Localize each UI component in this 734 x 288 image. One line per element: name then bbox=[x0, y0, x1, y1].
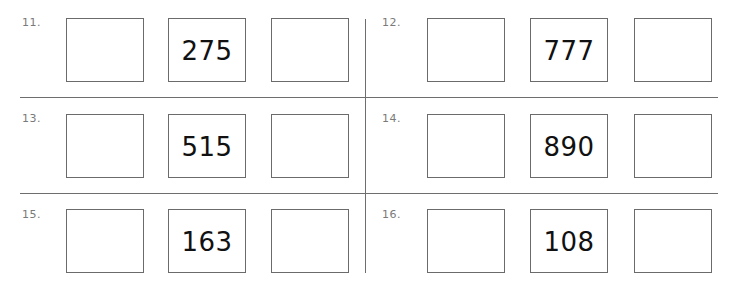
given-number-box: 275 bbox=[168, 18, 246, 82]
answer-box-left[interactable] bbox=[427, 209, 505, 273]
column-divider bbox=[365, 19, 366, 273]
answer-box-left[interactable] bbox=[427, 18, 505, 82]
given-number-box: 890 bbox=[530, 114, 608, 178]
answer-box-left[interactable] bbox=[66, 114, 144, 178]
row-divider-1 bbox=[20, 97, 718, 98]
given-number-box: 777 bbox=[530, 18, 608, 82]
answer-box-right[interactable] bbox=[271, 114, 349, 178]
worksheet: 11. 275 12. 777 13. 515 14. 890 15. 163 … bbox=[0, 0, 734, 288]
answer-box-left[interactable] bbox=[66, 209, 144, 273]
answer-box-right[interactable] bbox=[271, 18, 349, 82]
given-number: 163 bbox=[181, 227, 232, 257]
answer-box-left[interactable] bbox=[427, 114, 505, 178]
problem-number: 16. bbox=[382, 208, 401, 221]
answer-box-right[interactable] bbox=[634, 209, 712, 273]
answer-box-right[interactable] bbox=[634, 114, 712, 178]
problem-number: 12. bbox=[382, 16, 401, 29]
given-number: 777 bbox=[543, 36, 594, 66]
given-number-box: 515 bbox=[168, 114, 246, 178]
given-number: 108 bbox=[543, 227, 594, 257]
given-number-box: 163 bbox=[168, 209, 246, 273]
row-divider-2 bbox=[20, 193, 718, 194]
given-number-box: 108 bbox=[530, 209, 608, 273]
problem-number: 14. bbox=[382, 112, 401, 125]
problem-number: 11. bbox=[22, 16, 41, 29]
answer-box-right[interactable] bbox=[634, 18, 712, 82]
given-number: 515 bbox=[181, 132, 232, 162]
answer-box-right[interactable] bbox=[271, 209, 349, 273]
given-number: 275 bbox=[181, 36, 232, 66]
problem-number: 13. bbox=[22, 112, 41, 125]
answer-box-left[interactable] bbox=[66, 18, 144, 82]
problem-number: 15. bbox=[22, 208, 41, 221]
given-number: 890 bbox=[543, 132, 594, 162]
